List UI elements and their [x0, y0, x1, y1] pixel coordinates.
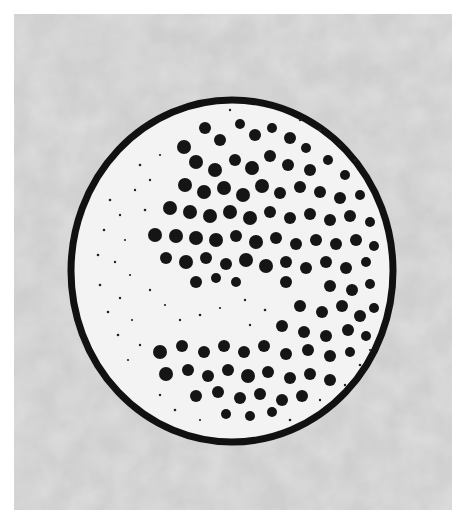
cell	[71, 100, 393, 442]
cell-figure	[0, 0, 465, 521]
